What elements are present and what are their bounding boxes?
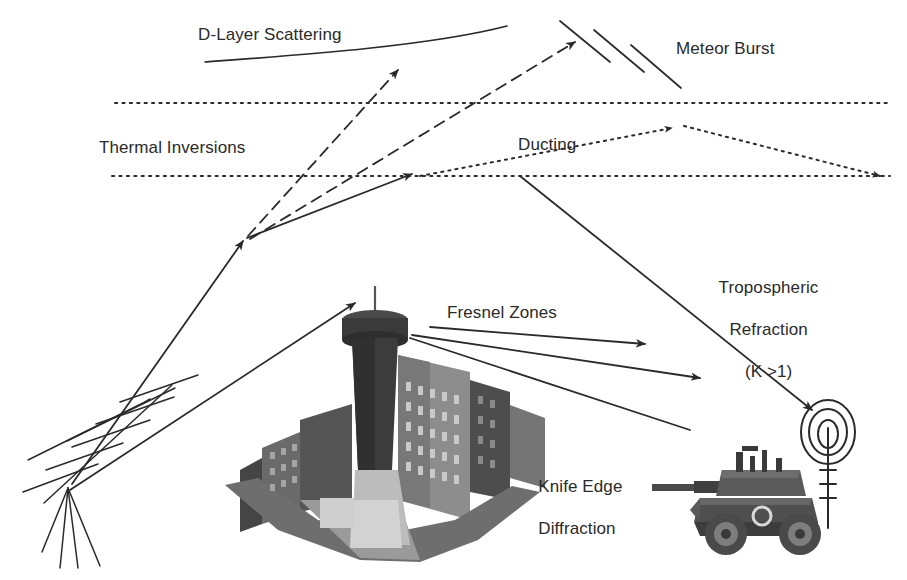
label-fresnel-zones: Fresnel Zones bbox=[447, 302, 557, 323]
label-tropospheric-refraction: Tropospheric Refraction (K >1) bbox=[686, 256, 832, 403]
uplink-ray bbox=[72, 241, 243, 484]
tropospheric-refraction-line-2: Refraction bbox=[729, 320, 807, 339]
tropospheric-refraction-line-1: Tropospheric bbox=[719, 278, 819, 297]
d-layer-scatter-ray bbox=[248, 70, 398, 236]
propagation-diagram: D-Layer Scattering Meteor Burst Thermal … bbox=[0, 0, 907, 580]
label-meteor-burst: Meteor Burst bbox=[676, 38, 775, 59]
label-thermal-inversions: Thermal Inversions bbox=[99, 137, 245, 158]
label-knife-edge-diffraction: Knife Edge Diffraction bbox=[519, 455, 622, 560]
meteor-streak-1 bbox=[560, 21, 610, 62]
label-ducting: Ducting bbox=[518, 134, 576, 155]
knife-edge-line-1: Knife Edge bbox=[538, 477, 622, 496]
label-d-layer-scattering: D-Layer Scattering bbox=[198, 24, 342, 45]
armored-vehicle bbox=[652, 446, 821, 555]
yagi-boom-main bbox=[44, 385, 172, 503]
city-skyline-tower bbox=[225, 286, 545, 562]
tropospheric-refraction-line-3: (K >1) bbox=[745, 362, 792, 381]
knife-edge-line-2: Diffraction bbox=[538, 519, 615, 538]
fresnel-ray-1 bbox=[430, 327, 645, 344]
ducting-ray-down bbox=[684, 126, 880, 176]
meteor-streak-2 bbox=[594, 30, 644, 72]
yagi-antenna bbox=[23, 375, 198, 568]
mast-leg-1 bbox=[60, 488, 68, 568]
inversion-to-duct-ray bbox=[247, 174, 412, 238]
